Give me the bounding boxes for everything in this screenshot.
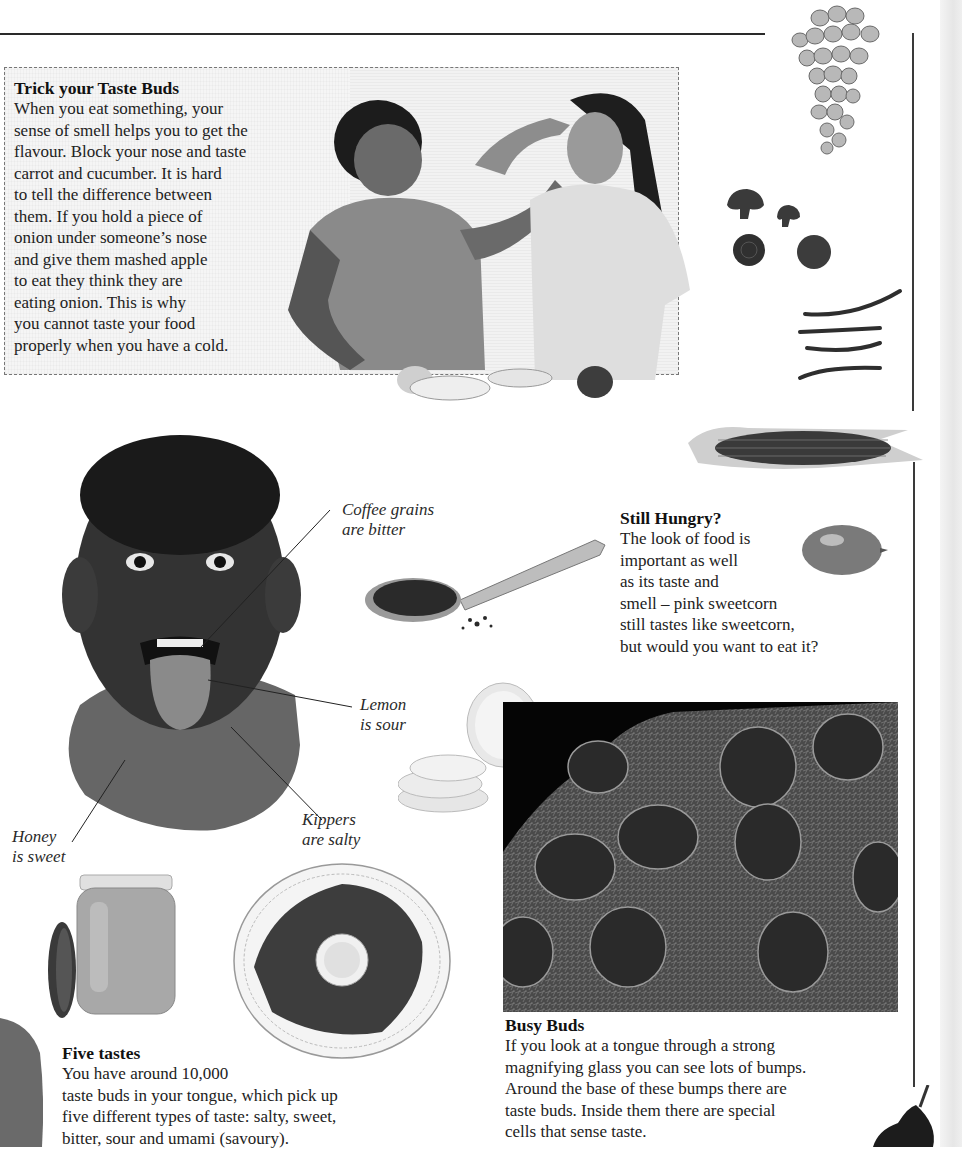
five-tastes-body: You have around 10,000 taste buds in you… — [62, 1063, 422, 1149]
text-line: but would you want to eat it? — [620, 636, 920, 658]
tongue-micrograph-image — [503, 702, 898, 1012]
text-line: still tastes like sweetcorn, — [620, 614, 920, 636]
text-line: You have around 10,000 — [62, 1063, 422, 1085]
text-line: If you look at a tongue through a strong — [505, 1035, 905, 1057]
text-line: Around the base of these bumps there are — [505, 1078, 905, 1100]
text-line: taste buds in your tongue, which pick up — [62, 1085, 422, 1107]
label-kippers: Kippers are salty — [302, 810, 360, 850]
lemon-image — [800, 520, 890, 580]
kippers-plate-image — [232, 862, 452, 1060]
label-line: are salty — [302, 830, 360, 850]
five-tastes-heading: Five tastes — [62, 1043, 422, 1063]
coffee-spoon-image — [365, 520, 610, 635]
pear-image — [868, 1085, 938, 1147]
text-line: taste buds. Inside them there are specia… — [505, 1100, 905, 1122]
busy-buds-section: Busy Buds If you look at a tongue throug… — [505, 1015, 905, 1143]
text-line: smell – pink sweetcorn — [620, 593, 920, 615]
honey-jar-image — [42, 870, 182, 1020]
five-tastes-section: Five tastes You have around 10,000 taste… — [62, 1043, 422, 1149]
label-line: Kippers — [302, 810, 360, 830]
busy-buds-body: If you look at a tongue through a strong… — [505, 1035, 905, 1143]
label-line: Honey — [12, 827, 65, 847]
hand-image — [0, 1018, 45, 1147]
label-line: is sweet — [12, 847, 65, 867]
busy-buds-heading: Busy Buds — [505, 1015, 905, 1035]
label-line: Coffee grains — [342, 500, 434, 520]
text-line: magnifying glass you can see lots of bum… — [505, 1057, 905, 1079]
text-line: cells that sense taste. — [505, 1121, 905, 1143]
text-line: bitter, sour and umami (savoury). — [62, 1128, 422, 1149]
text-line: five different types of taste: salty, sw… — [62, 1106, 422, 1128]
label-honey: Honey is sweet — [12, 827, 65, 867]
